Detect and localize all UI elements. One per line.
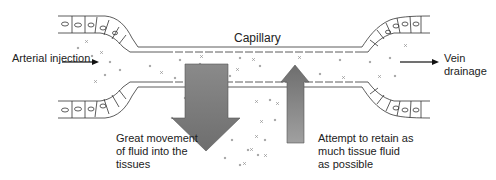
attempt-retain-label-line2: much tissue fluid: [318, 145, 400, 158]
arteriole-lower-wall: [58, 82, 165, 118]
great-movement-label-line1: Great movement: [116, 132, 198, 145]
arteriole-upper-wall: [58, 16, 165, 52]
vein-drainage-arrow: [400, 59, 439, 65]
vein-upper-wall: [355, 16, 430, 52]
attempt-retain-label-line3: as possible: [318, 158, 373, 171]
vein-drainage-label-line1: Vein: [444, 52, 465, 65]
attempt-retain-label-line1: Attempt to retain as: [318, 132, 413, 145]
vein-drainage-label-line2: drainage: [444, 65, 487, 78]
great-movement-label-line2: of fluid into the: [116, 145, 188, 158]
capillary-label: Capillary: [234, 32, 281, 45]
great-movement-label-line3: tissues: [116, 158, 150, 171]
vein-lower-wall: [355, 82, 430, 118]
capillary-diagram: [0, 0, 496, 180]
fluid-retain-arrow: [281, 65, 309, 143]
arterial-injection-label: Arterial injection: [12, 52, 90, 65]
